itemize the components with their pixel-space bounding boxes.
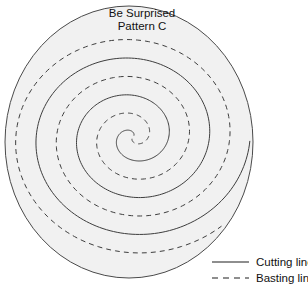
pattern-title: Be Surprised Pattern C <box>109 7 175 32</box>
legend-item-cutting-line: Cutting line <box>212 256 308 268</box>
spiral-pattern-figure: Be Surprised Pattern C Cutting line Bast… <box>0 0 308 288</box>
legend: Cutting line Basting line <box>212 256 308 284</box>
legend-item-basting-line: Basting line <box>212 272 308 284</box>
legend-label-basting-line: Basting line <box>256 272 308 284</box>
title-line-1: Be Surprised <box>109 7 175 19</box>
legend-label-cutting-line: Cutting line <box>256 256 308 268</box>
title-line-2: Pattern C <box>118 20 167 32</box>
fabric-disc <box>5 6 253 278</box>
